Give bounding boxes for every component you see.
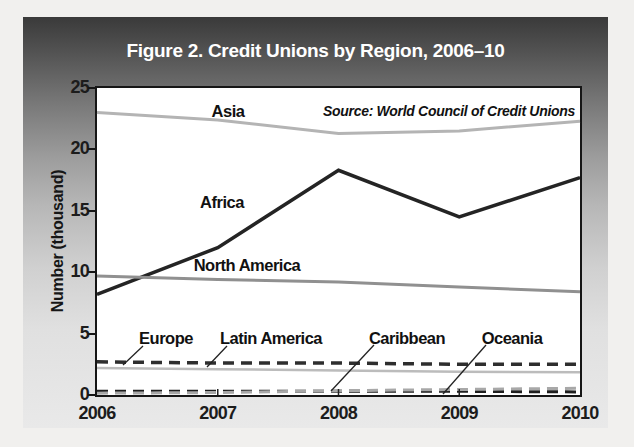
plot-area: Source: World Council of Credit Unions A… — [95, 86, 582, 397]
y-tick-mark — [88, 271, 95, 273]
page: { "figure": { "title": "Figure 2. Credit… — [0, 0, 634, 447]
x-tick-label-2008: 2008 — [309, 403, 369, 424]
plot-inner: Source: World Council of Credit Unions A… — [97, 88, 580, 395]
series-line-africa — [97, 170, 580, 294]
y-axis-title: Number (thousand) — [49, 170, 67, 312]
series-label-europe: Europe — [139, 329, 193, 348]
y-tick-label-25: 25 — [49, 77, 89, 98]
chart-svg — [97, 88, 580, 395]
series-label-oceania: Oceania — [482, 329, 543, 348]
x-tick-label-2006: 2006 — [67, 403, 127, 424]
y-tick-label-20: 20 — [49, 138, 89, 159]
y-tick-mark — [88, 394, 95, 396]
y-tick-label-5: 5 — [49, 323, 89, 344]
leader-line-caribbean — [331, 345, 374, 391]
series-label-africa: Africa — [200, 193, 244, 212]
series-line-europe — [97, 362, 580, 364]
y-tick-label-0: 0 — [49, 384, 89, 405]
leader-line-oceania — [443, 345, 486, 394]
series-line-north-america — [97, 276, 580, 292]
y-tick-label-15: 15 — [49, 200, 89, 221]
series-label-asia: Asia — [212, 102, 245, 121]
y-tick-mark — [88, 148, 95, 150]
y-tick-label-10: 10 — [49, 261, 89, 282]
figure-title: Figure 2. Credit Unions by Region, 2006–… — [23, 40, 608, 62]
series-label-latin-america: Latin America — [220, 329, 322, 348]
y-tick-mark — [88, 333, 95, 335]
series-label-north-america: North America — [194, 256, 301, 275]
y-tick-mark — [88, 87, 95, 89]
x-tick-label-2007: 2007 — [188, 403, 248, 424]
x-tick-label-2009: 2009 — [429, 403, 489, 424]
y-tick-mark — [88, 210, 95, 212]
series-line-latin-america — [97, 368, 580, 372]
source-label: Source: World Council of Credit Unions — [323, 103, 575, 119]
figure-card: Figure 2. Credit Unions by Region, 2006–… — [23, 17, 608, 428]
x-tick-label-2010: 2010 — [550, 403, 610, 424]
series-label-caribbean: Caribbean — [369, 329, 445, 348]
